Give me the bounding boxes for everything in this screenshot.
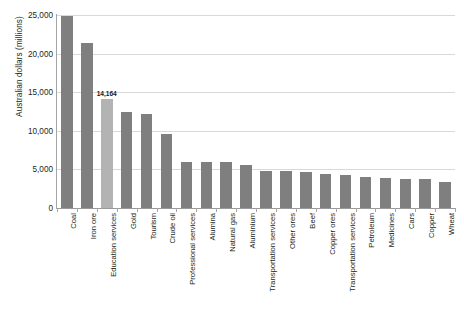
x-category-label: Education services [110,213,118,277]
x-category-label: Alumina [209,213,217,240]
bar [161,134,173,208]
x-tick [395,208,396,212]
bar [141,114,153,208]
bar [280,171,292,208]
y-tick-label: 5,000 [33,165,54,174]
x-axis-ticks [57,208,455,212]
x-category-label: Iron ore [90,213,98,239]
bar [61,16,73,208]
y-axis-tick-labels: 25,00020,00015,00010,0005,0000 [0,0,53,317]
x-tick [236,208,237,212]
x-category-label: Tourism [150,213,158,240]
x-category-label: Professional services [189,213,197,285]
x-tick [137,208,138,212]
x-tick [97,208,98,212]
x-category-label: Crude oil [169,213,177,243]
x-tick [415,208,416,212]
bar [320,174,332,208]
x-tick [77,208,78,212]
x-tick [375,208,376,212]
bar [340,175,352,208]
x-tick [296,208,297,212]
bar-series: 14,164 [57,15,455,208]
bar [360,177,372,208]
x-category-label: Medicines [388,213,396,247]
x-tick [176,208,177,212]
bar [121,112,133,208]
x-category-label: Copper ores [329,213,337,255]
x-category-label: Copper [428,213,436,238]
bar [181,162,193,208]
x-category-label: Petroleum [368,213,376,248]
x-category-label: Natural gas [229,213,237,252]
bar [101,99,113,208]
x-tick [316,208,317,212]
x-category-label: Aluminium [249,213,257,248]
x-category-label: Other ores [289,213,297,249]
x-tick [196,208,197,212]
y-tick-label: 10,000 [28,126,53,135]
x-tick [157,208,158,212]
x-tick [256,208,257,212]
x-category-label: Transportation services [349,213,357,292]
x-tick [57,208,58,212]
x-axis-category-labels: CoalIron oreEducation servicesGoldTouris… [57,213,455,317]
y-tick-label: 15,000 [28,88,53,97]
x-tick [276,208,277,212]
y-tick-label: 0 [48,204,53,213]
bar [220,162,232,208]
bar [81,43,93,208]
bar [260,171,272,208]
x-category-label: Transportation services [269,213,277,292]
bar [300,172,312,208]
y-tick-label: 20,000 [28,49,53,58]
bar [400,179,412,208]
x-category-label: Coal [70,213,78,229]
bar [439,182,451,208]
x-tick [336,208,337,212]
bar [380,178,392,208]
x-category-label: Cars [408,213,416,229]
bar [240,165,252,208]
x-category-label: Wheat [448,213,456,235]
x-category-label: Gold [130,213,138,229]
x-category-label: Beef [309,213,317,229]
bar [201,162,213,208]
x-tick [216,208,217,212]
y-tick-label: 25,000 [28,11,53,20]
bar [419,179,431,208]
x-tick [117,208,118,212]
x-tick [356,208,357,212]
bar-value-label: 14,164 [97,90,117,97]
plot-area: 14,164 [57,15,455,208]
x-tick [455,208,456,212]
x-tick [435,208,436,212]
bar-chart: Australian dollars (millions) 25,00020,0… [0,0,464,317]
